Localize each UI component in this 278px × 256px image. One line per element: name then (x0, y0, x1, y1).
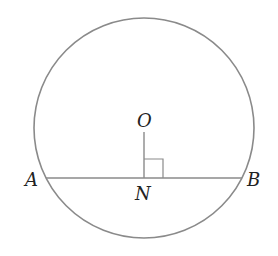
right-angle-marker (144, 159, 163, 178)
geometry-diagram: O A B N (0, 0, 278, 256)
label-b: B (247, 171, 260, 189)
label-o: O (137, 112, 152, 130)
label-a: A (25, 171, 38, 189)
label-n: N (135, 185, 151, 203)
